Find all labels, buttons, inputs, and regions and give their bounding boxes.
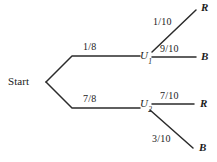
edge-label-start-to-u1: 1/8 xyxy=(83,42,96,52)
edge-label-start-to-u2: 7/8 xyxy=(83,94,96,104)
edge-label-u2-to-blue: 3/10 xyxy=(152,134,171,144)
edge-label-u1-to-red: 1/10 xyxy=(153,17,172,27)
outcome-u1-blue: B xyxy=(201,51,208,62)
outcome-u2-red: R xyxy=(200,98,207,109)
node-u2: U2 xyxy=(140,98,152,112)
tree-edges-canvas xyxy=(0,0,217,162)
edge-label-u1-to-blue: 9/10 xyxy=(160,44,179,54)
edge-label-u2-to-red: 7/10 xyxy=(160,91,179,101)
edge-start-to-u1 xyxy=(46,56,140,82)
node-u1-subscript: 1 xyxy=(148,57,152,66)
node-u1-letter: U xyxy=(140,49,148,61)
node-u2-subscript: 2 xyxy=(148,105,152,114)
node-start-label: Start xyxy=(8,76,29,87)
probability-tree-diagram: Start U1 U2 R B R B 1/8 7/8 1/10 9/10 7/… xyxy=(0,0,217,162)
node-u2-letter: U xyxy=(140,97,148,109)
node-u1: U1 xyxy=(140,50,152,64)
outcome-u2-blue: B xyxy=(199,142,206,153)
outcome-u1-red: R xyxy=(201,2,208,13)
